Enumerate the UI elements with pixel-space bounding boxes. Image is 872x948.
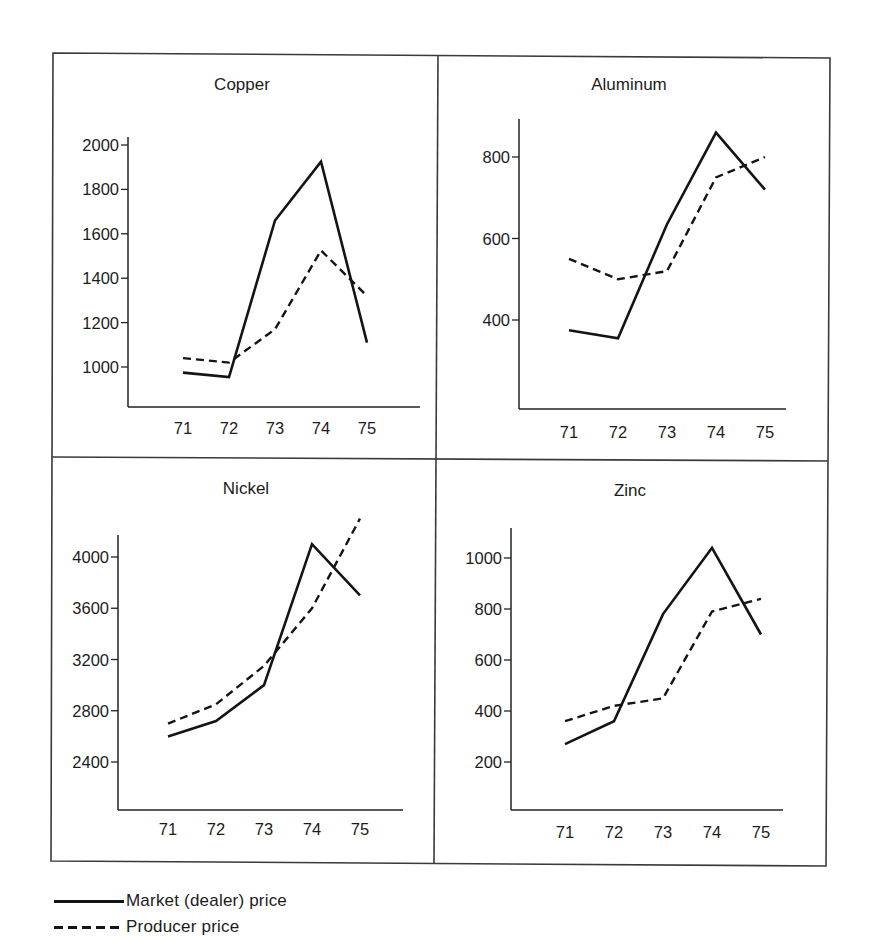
y-tick-label: 1400 [82,269,119,287]
panel-zinc: Zinc 2004006008001000 7172737475 [465,481,783,841]
y-ticks: 2004006008001000 [465,549,511,771]
panel-title: Zinc [614,481,647,500]
legend: Market (dealer) price Producer price [54,888,287,940]
x-tick-label: 73 [658,423,676,441]
x-tick-label: 71 [174,419,192,437]
legend-label: Market (dealer) price [126,891,287,911]
x-tick-label: 72 [605,823,623,841]
x-ticks: 7172737475 [159,820,369,838]
x-tick-label: 74 [303,820,321,838]
producer-price-line [168,519,360,724]
x-tick-label: 71 [159,820,177,838]
panel-nickel: Nickel 24002800320036004000 7172737475 [72,479,403,838]
x-tick-label: 71 [560,423,578,441]
x-tick-label: 73 [654,823,672,841]
legend-label: Producer price [126,917,239,937]
y-tick-label: 1600 [82,225,119,243]
x-tick-label: 72 [220,419,238,437]
x-tick-label: 75 [358,419,376,437]
horizontal-divider [52,457,828,461]
panel-frame [51,53,830,866]
x-ticks: 7172737475 [560,423,774,441]
y-tick-label: 1200 [82,314,119,332]
y-tick-label: 800 [482,148,510,166]
x-tick-label: 72 [609,423,627,441]
panel-title: Nickel [223,479,269,498]
y-tick-label: 600 [482,230,510,248]
x-tick-label: 75 [351,820,369,838]
solid-line-swatch-icon [54,896,124,906]
y-tick-label: 2400 [72,753,109,771]
metal-prices-figure: Copper 100012001400160018002000 71727374… [0,0,872,948]
producer-price-line [183,250,367,362]
x-tick-label: 73 [255,820,273,838]
y-tick-label: 400 [482,311,510,329]
y-tick-label: 1000 [82,358,119,376]
market-price-line [565,548,761,744]
panel-aluminum: Aluminum 400600800 7172737475 [482,75,786,441]
panel-title: Copper [214,75,270,94]
y-tick-label: 3200 [72,651,109,669]
market-price-line [569,133,765,339]
x-ticks: 7172737475 [174,419,376,437]
y-tick-label: 3600 [72,599,109,617]
legend-item-producer: Producer price [54,914,287,940]
y-tick-label: 2000 [82,136,119,154]
y-ticks: 100012001400160018002000 [82,136,128,376]
y-ticks: 24002800320036004000 [72,548,118,771]
x-tick-label: 72 [207,820,225,838]
y-tick-label: 600 [474,651,502,669]
x-tick-label: 71 [556,823,574,841]
y-tick-label: 400 [474,702,502,720]
y-tick-label: 1000 [465,549,502,567]
dashed-line-swatch-icon [54,922,124,932]
y-tick-label: 4000 [72,548,109,566]
y-tick-label: 1800 [82,180,119,198]
x-tick-label: 75 [752,823,770,841]
panel-title: Aluminum [591,75,667,94]
y-ticks: 400600800 [482,148,519,329]
legend-item-market: Market (dealer) price [54,888,287,914]
market-price-line [183,162,367,377]
x-tick-label: 74 [312,419,330,437]
y-tick-label: 800 [474,600,502,618]
x-ticks: 7172737475 [556,823,770,841]
x-tick-label: 74 [703,823,721,841]
y-tick-label: 200 [474,753,502,771]
panel-copper: Copper 100012001400160018002000 71727374… [82,75,420,437]
y-tick-label: 2800 [72,702,109,720]
producer-price-line [569,157,765,279]
x-tick-label: 74 [707,423,725,441]
x-tick-label: 75 [756,423,774,441]
x-tick-label: 73 [266,419,284,437]
